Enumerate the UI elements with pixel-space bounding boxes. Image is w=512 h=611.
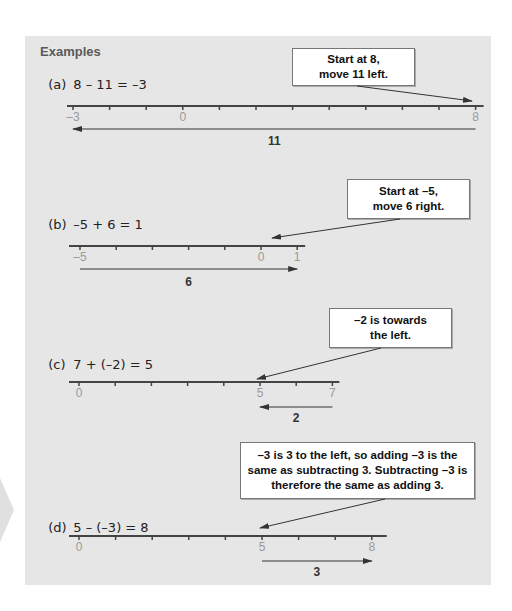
example-a-tick-label: 0 [179,110,186,124]
example-d-tick-label: 8 [368,540,375,554]
example-b-tick-label: –5 [73,250,87,264]
example-d-move-label: 3 [314,565,321,579]
example-c-tick-label: 7 [329,386,336,400]
example-d-tick-label: 0 [76,540,83,554]
example-d-callout-pointer [260,499,385,528]
example-d-tick-label: 5 [259,540,266,554]
example-a-tick-label: 8 [472,110,479,124]
number-lines-diagram: –30811–501605720583 [0,0,512,611]
example-c-move-label: 2 [293,411,300,425]
example-b-move-label: 6 [185,275,192,289]
example-c-callout-pointer [257,348,381,379]
example-c-tick-label: 0 [76,386,83,400]
example-a-callout-pointer [357,86,472,101]
example-c-tick-label: 5 [257,386,264,400]
example-b-tick-label: 0 [258,250,265,264]
example-a-move-label: 11 [268,134,281,148]
example-b-callout-pointer [272,219,400,238]
example-b-tick-label: 1 [294,250,301,264]
example-a-tick-label: –3 [66,110,80,124]
